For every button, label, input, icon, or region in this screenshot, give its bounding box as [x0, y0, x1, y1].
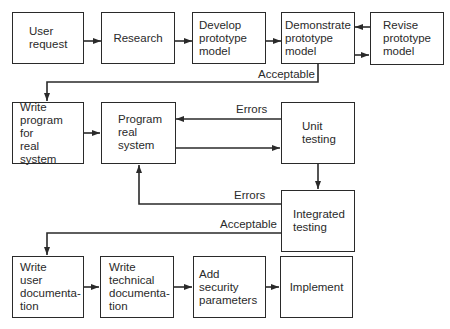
node-label: Develop prototype model [199, 19, 247, 58]
node-label: Write program for real system [20, 101, 77, 166]
edge-label-errors-integrated: Errors [234, 189, 265, 202]
node-unit-testing: Unit testing [281, 102, 355, 164]
node-write-technical-documentation: Write technical documenta- tion [100, 256, 174, 318]
edge-label-errors-unit: Errors [236, 103, 267, 116]
node-research: Research [101, 12, 175, 64]
node-add-security-parameters: Add security parameters [193, 256, 266, 318]
node-program-real-system: Program real system [101, 102, 176, 164]
edge-label-acceptable-2: Acceptable [220, 218, 277, 231]
node-label: Write technical documenta- tion [109, 261, 170, 313]
node-demonstrate-prototype: Demonstrate prototype model [281, 12, 355, 64]
node-integrated-testing: Integrated testing [281, 190, 355, 252]
node-label: Program real system [118, 113, 162, 152]
node-user-request: User request [12, 12, 84, 64]
node-label: Demonstrate prototype model [285, 19, 351, 58]
node-write-user-documentation: Write user documenta- tion [12, 256, 84, 318]
node-label: User request [29, 25, 67, 51]
arrow-acceptable-to-user-doc [47, 233, 281, 255]
node-label: Add security parameters [199, 268, 259, 307]
node-develop-prototype: Develop prototype model [192, 12, 266, 64]
node-label: Implement [290, 281, 344, 294]
node-label: Integrated testing [293, 208, 345, 234]
node-label: Revise prototype model [383, 19, 431, 58]
node-revise-prototype: Revise prototype model [370, 12, 444, 65]
node-label: Write user documenta- tion [20, 261, 81, 313]
node-label: Unit testing [302, 120, 336, 146]
edge-label-acceptable-1: Acceptable [258, 68, 315, 81]
node-write-program: Write program for real system [12, 102, 84, 164]
node-label: Research [113, 32, 162, 45]
node-implement: Implement [280, 256, 353, 318]
